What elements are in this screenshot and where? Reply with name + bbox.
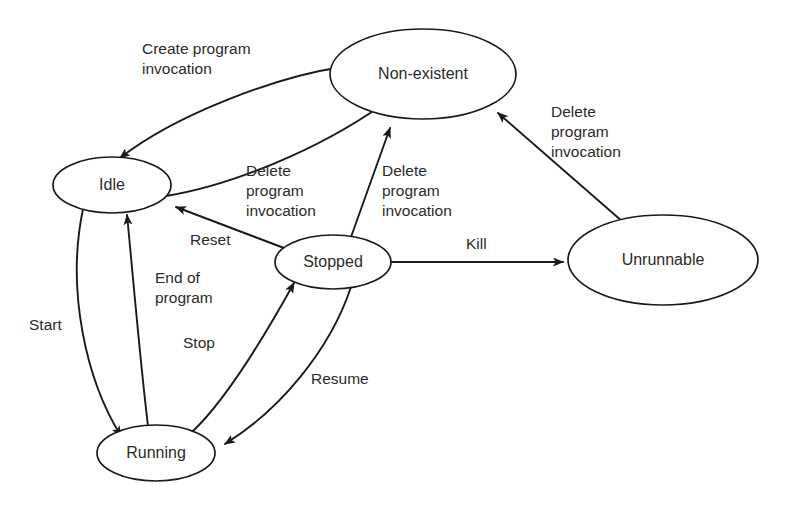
- state-diagram-canvas: Create program invocation Delete program…: [0, 0, 787, 510]
- transition-stopped-to-running: Resume: [225, 287, 369, 444]
- state-node-unrunnable[interactable]: Unrunnable: [568, 215, 758, 305]
- edge-label-start: Start: [29, 316, 62, 333]
- transition-stopped-to-unrunnable: Kill: [391, 235, 563, 262]
- state-label-unrunnable: Unrunnable: [622, 251, 705, 268]
- state-transition-diagram: Create program invocation Delete program…: [0, 0, 787, 510]
- edge-line-end-of-program: [127, 215, 148, 426]
- edge-label-create-program-invocation: Create program invocation: [142, 40, 255, 77]
- transition-idle-to-non-existent: Delete program invocation: [166, 105, 382, 219]
- state-label-running: Running: [126, 444, 186, 461]
- state-node-stopped[interactable]: Stopped: [275, 235, 391, 289]
- edge-label-delete-program-invocation-idle: Delete program invocation: [246, 162, 316, 219]
- edge-label-delete-program-invocation-unrunnable: Delete program invocation: [551, 103, 621, 160]
- state-node-non-existent[interactable]: Non-existent: [330, 29, 516, 119]
- state-node-idle[interactable]: Idle: [53, 157, 171, 213]
- edge-label-stop: Stop: [183, 334, 215, 351]
- state-label-idle: Idle: [99, 176, 125, 193]
- state-label-non-existent: Non-existent: [378, 65, 468, 82]
- edge-label-delete-program-invocation-stopped: Delete program invocation: [382, 162, 452, 219]
- transition-unrunnable-to-non-existent: Delete program invocation: [498, 103, 623, 222]
- edge-label-reset: Reset: [190, 231, 231, 248]
- transition-non-existent-to-idle: Create program invocation: [120, 40, 342, 158]
- edge-label-resume: Resume: [311, 370, 369, 387]
- edge-label-end-of-program: End of program: [155, 269, 213, 306]
- edge-line-start: [77, 209, 121, 436]
- transition-idle-to-running: Start: [29, 209, 121, 436]
- state-node-running[interactable]: Running: [97, 425, 215, 481]
- transition-stopped-to-non-existent: Delete program invocation: [351, 128, 452, 237]
- edge-line-create-program-invocation: [120, 67, 342, 158]
- state-label-stopped: Stopped: [303, 253, 363, 270]
- edge-label-kill: Kill: [466, 235, 487, 252]
